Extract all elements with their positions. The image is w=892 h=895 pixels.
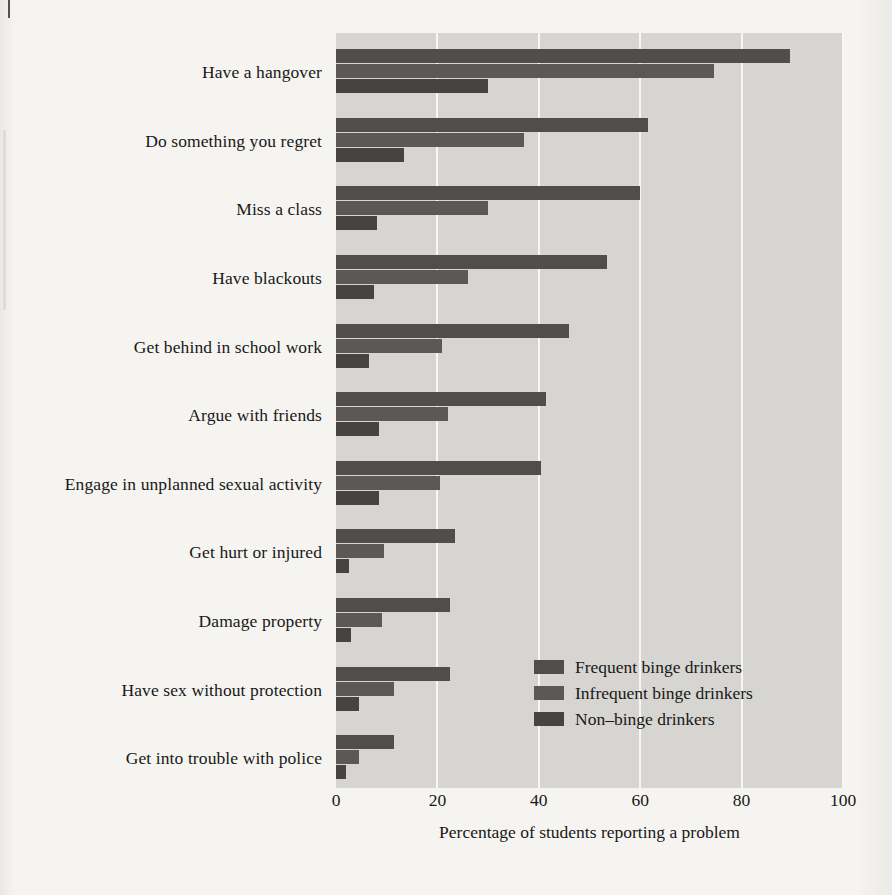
bar — [336, 422, 379, 436]
bar — [336, 64, 714, 78]
bar — [336, 255, 607, 269]
bar-group — [336, 392, 843, 436]
bar — [336, 186, 640, 200]
bar-group — [336, 186, 843, 230]
bar — [336, 216, 377, 230]
legend-swatch-icon — [534, 660, 564, 674]
category-label: Get hurt or injured — [0, 542, 322, 562]
bar — [336, 735, 394, 749]
bar-chart-figure: Have a hangoverDo something you regretMi… — [0, 0, 892, 895]
bar — [336, 49, 790, 63]
bar-group — [336, 598, 843, 642]
bar — [336, 613, 382, 627]
category-label: Miss a class — [0, 199, 322, 219]
bar — [336, 79, 488, 93]
category-label: Do something you regret — [0, 131, 322, 151]
bar — [336, 339, 442, 353]
bar — [336, 270, 468, 284]
bar — [336, 765, 346, 779]
bar — [336, 354, 369, 368]
bar — [336, 697, 359, 711]
x-tick-label-100: 100 — [830, 790, 856, 811]
category-label: Damage property — [0, 611, 322, 631]
bar — [336, 324, 569, 338]
bar — [336, 461, 541, 475]
legend-swatch-icon — [534, 686, 564, 700]
bar — [336, 392, 546, 406]
category-label: Get into trouble with police — [0, 748, 322, 768]
bar-group — [336, 118, 843, 162]
bar — [336, 201, 488, 215]
x-tick-label-0: 0 — [332, 790, 341, 811]
bar — [336, 750, 359, 764]
chart-legend: Frequent binge drinkersInfrequent binge … — [534, 654, 834, 732]
x-tick-label-40: 40 — [530, 790, 548, 811]
bar — [336, 559, 349, 573]
x-axis-ticks: 020406080100 — [336, 788, 843, 818]
bar-group — [336, 49, 843, 93]
legend-item: Non–binge drinkers — [534, 706, 834, 732]
bar-group — [336, 735, 843, 779]
bar — [336, 476, 440, 490]
bar — [336, 407, 448, 421]
category-label: Engage in unplanned sexual activity — [0, 474, 322, 494]
category-label: Have a hangover — [0, 62, 322, 82]
bar — [336, 667, 450, 681]
legend-item: Infrequent binge drinkers — [534, 680, 834, 706]
category-label: Get behind in school work — [0, 337, 322, 357]
bar — [336, 598, 450, 612]
legend-label: Frequent binge drinkers — [575, 657, 742, 677]
category-label: Have sex without protection — [0, 680, 322, 700]
legend-label: Infrequent binge drinkers — [575, 683, 753, 703]
bar — [336, 682, 394, 696]
bar — [336, 491, 379, 505]
x-tick-label-80: 80 — [733, 790, 751, 811]
bar — [336, 148, 404, 162]
bar — [336, 133, 524, 147]
bar-group — [336, 529, 843, 573]
bar — [336, 529, 455, 543]
bar — [336, 628, 351, 642]
x-tick-label-20: 20 — [429, 790, 447, 811]
legend-label: Non–binge drinkers — [575, 709, 715, 729]
category-label: Have blackouts — [0, 268, 322, 288]
bar-group — [336, 324, 843, 368]
bar — [336, 118, 648, 132]
category-label: Argue with friends — [0, 405, 322, 425]
legend-item: Frequent binge drinkers — [534, 654, 834, 680]
x-tick-label-60: 60 — [631, 790, 649, 811]
legend-swatch-icon — [534, 712, 564, 726]
bar — [336, 544, 384, 558]
bar-group — [336, 255, 843, 299]
category-axis-labels: Have a hangoverDo something you regretMi… — [0, 33, 322, 788]
x-axis-title: Percentage of students reporting a probl… — [336, 822, 843, 843]
bar-group — [336, 461, 843, 505]
bar — [336, 285, 374, 299]
